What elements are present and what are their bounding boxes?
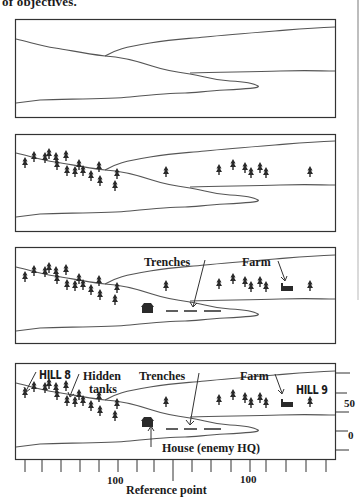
label-hidden-tanks-line2: tanks	[89, 383, 117, 395]
horizontal-scale	[25, 460, 326, 481]
horizontal-scale-right-100: 100	[240, 474, 257, 485]
label-trenches-p4: Trenches	[139, 370, 185, 382]
panel-2	[16, 135, 336, 232]
label-hidden-tanks-line1: Hidden	[83, 370, 121, 382]
reference-point-label: Reference point	[126, 484, 207, 496]
house-icon	[141, 417, 154, 427]
label-hill-9: HILL 9	[296, 384, 327, 396]
house-icon	[141, 303, 154, 313]
label-hill-8: HILL 8	[39, 369, 70, 381]
panel-1	[16, 20, 336, 118]
vertical-scale-50: 50	[344, 398, 355, 409]
label-house-enemy-hq: House (enemy HQ)	[162, 442, 260, 454]
label-trenches-p3: Trenches	[144, 256, 190, 268]
label-farm-p3: Farm	[242, 256, 271, 268]
horizontal-scale-left-100: 100	[107, 475, 124, 486]
label-farm-p4: Farm	[240, 370, 269, 382]
vertical-scale-0: 0	[348, 430, 354, 441]
